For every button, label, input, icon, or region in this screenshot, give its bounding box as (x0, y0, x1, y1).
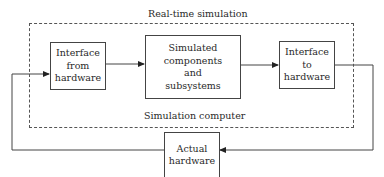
node-text: components (164, 55, 222, 68)
node-text: Interface (284, 46, 330, 59)
node-text: hardware (284, 71, 330, 84)
interface-from-hardware-box: Interface from hardware (50, 42, 106, 90)
node-text: Simulated (164, 42, 222, 55)
node-text: hardware (55, 72, 101, 85)
simulated-components-box: Simulated components and subsystems (145, 35, 241, 99)
node-text: to (284, 59, 330, 72)
interface-to-hardware-box: Interface to hardware (279, 41, 335, 89)
node-text: hardware (169, 155, 215, 168)
node-text: subsystems (164, 80, 222, 93)
node-text: from (55, 60, 101, 73)
real-time-simulation-label: Real-time simulation (148, 8, 248, 19)
node-text: Interface (55, 47, 101, 60)
node-text: Actual (169, 143, 215, 156)
simulation-computer-label: Simulation computer (144, 110, 245, 121)
actual-hardware-box: Actual hardware (164, 132, 220, 177)
node-text: and (164, 67, 222, 80)
